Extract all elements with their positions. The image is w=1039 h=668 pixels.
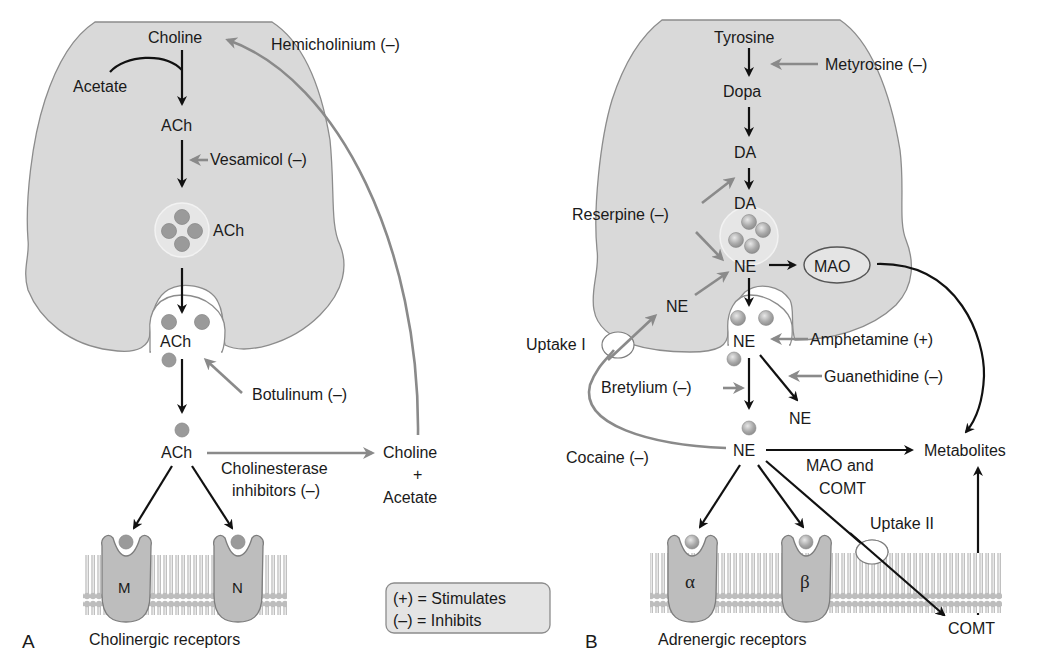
label-vesamicol: Vesamicol (–)	[210, 151, 307, 168]
label-ach-cleft: ACh	[160, 333, 191, 350]
ach-molecule	[162, 224, 177, 239]
label-ne-cleft: NE	[733, 333, 755, 350]
arrow-ach-to-m	[134, 466, 172, 528]
label-ach-synthesized: ACh	[161, 117, 192, 134]
label-choline: Choline	[148, 29, 202, 46]
label-botulinum: Botulinum (–)	[252, 386, 347, 403]
label-ne-displaced: NE	[789, 410, 811, 427]
label-ne-vesicle: NE	[734, 258, 756, 275]
label-ne-reuptake: NE	[666, 298, 688, 315]
ne-molecule	[731, 311, 746, 326]
label-da-1: DA	[734, 144, 757, 161]
label-uptake-1: Uptake I	[526, 336, 586, 353]
ne-molecule	[727, 352, 741, 366]
ach-molecule	[195, 315, 210, 330]
ne-molecule	[756, 223, 771, 238]
label-acetate-out: Acetate	[383, 489, 437, 506]
arrow-ne-to-alpha	[700, 465, 740, 527]
ne-molecule	[729, 233, 744, 248]
ne-molecule	[759, 311, 774, 326]
label-guanethidine: Guanethidine (–)	[824, 368, 943, 385]
ach-molecule	[162, 315, 177, 330]
ach-molecule	[175, 423, 189, 437]
botulinum-arrow	[206, 360, 242, 393]
ach-molecule	[188, 224, 203, 239]
label-amphetamine: Amphetamine (+)	[810, 331, 933, 348]
label-uptake-2: Uptake II	[870, 515, 934, 532]
panel-b: Tyrosine Metyrosine (–) Dopa DA DA Reser…	[526, 20, 1006, 652]
legend-stimulates: (+) = Stimulates	[393, 590, 506, 607]
ne-molecule	[742, 421, 756, 435]
label-mao: MAO	[814, 258, 850, 275]
label-cocaine: Cocaine (–)	[566, 449, 649, 466]
label-receptor-n: N	[232, 579, 243, 596]
label-metabolites: Metabolites	[924, 442, 1006, 459]
label-dopa: Dopa	[723, 83, 761, 100]
label-receptor-m: M	[118, 579, 131, 596]
label-tyrosine: Tyrosine	[714, 29, 775, 46]
ach-molecule	[175, 210, 190, 225]
label-da-2: DA	[734, 195, 757, 212]
label-comt: COMT	[948, 620, 995, 637]
label-ach-vesicle: ACh	[213, 222, 244, 239]
label-receptor-alpha: α	[685, 571, 695, 592]
label-ne-synapse: NE	[733, 442, 755, 459]
ach-molecule	[175, 237, 190, 252]
panel-letter-a: A	[22, 631, 35, 652]
label-choline-out: Choline	[383, 444, 437, 461]
label-comt-mid: COMT	[819, 480, 866, 497]
neurotransmitter-diagram: Choline Acetate ACh Vesamicol (–) ACh AC…	[0, 0, 1039, 668]
cocaine-uptake-curve	[589, 350, 726, 448]
label-reserpine: Reserpine (–)	[572, 206, 669, 223]
legend: (+) = Stimulates (–) = Inhibits	[386, 583, 550, 633]
label-metyrosine: Metyrosine (–)	[825, 56, 927, 73]
arrow-ne-displaced	[760, 355, 797, 400]
label-cholinesterase-2: inhibitors (–)	[232, 482, 320, 499]
caption-cholinergic: Cholinergic receptors	[89, 631, 240, 648]
ne-molecule	[742, 215, 757, 230]
label-hemicholinium: Hemicholinium (–)	[271, 36, 400, 53]
uptake-1-transporter	[602, 332, 634, 358]
label-plus: +	[413, 466, 422, 483]
label-acetate: Acetate	[73, 78, 127, 95]
panel-letter-b: B	[585, 631, 598, 652]
label-mao-and: MAO and	[806, 457, 874, 474]
ne-molecule	[745, 239, 760, 254]
legend-inhibits: (–) = Inhibits	[393, 612, 481, 629]
label-receptor-beta: β	[800, 571, 810, 592]
label-ach-synapse: ACh	[161, 444, 192, 461]
ach-molecule	[162, 353, 176, 367]
label-bretylium: Bretylium (–)	[601, 379, 692, 396]
label-cholinesterase-1: Cholinesterase	[221, 460, 328, 477]
caption-adrenergic: Adrenergic receptors	[658, 631, 807, 648]
panel-a: Choline Acetate ACh Vesamicol (–) ACh AC…	[22, 22, 437, 652]
